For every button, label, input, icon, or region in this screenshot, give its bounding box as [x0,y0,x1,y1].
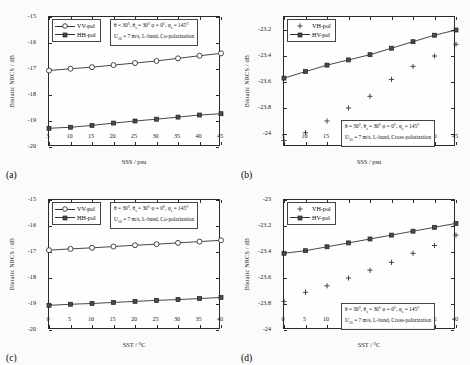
annotation-line-1: θ = 30°, θs = 30° φ = 0°, φs = 145° [345,123,431,134]
series-hv-pol [282,221,458,255]
data-point [304,249,308,253]
data-point [367,268,372,273]
data-point [347,58,351,62]
y-axis-label: Bistatic NRCS / dB [8,16,20,146]
x-tick-label: 45 [217,132,223,139]
data-point [133,119,137,123]
data-point [282,76,286,80]
data-point [90,245,95,250]
data-point [453,42,458,47]
legend-label: HH-pol [77,214,96,223]
series-vv-pol [47,51,224,73]
data-point [155,298,159,302]
legend-label: HV-pol [312,214,330,223]
data-point [389,260,394,265]
x-tick-mark [221,200,222,203]
data-point [69,125,73,129]
y-tick-label: -18 [0,90,36,97]
data-point [197,239,202,244]
data-point [324,283,329,288]
y-tick-label: -24 [231,325,271,332]
x-axis-label: SST / °C [48,341,220,348]
parameter-annotation: θ = 30°, θs = 30° φ = 0°, φs = 145°U10 =… [110,202,198,229]
parameter-annotation: θ = 30°, θs = 30° φ = 0°, φs = 145°U10 =… [110,19,198,46]
data-point [176,298,180,302]
x-tick-label: 5 [68,315,71,322]
data-point [411,40,415,44]
annotation-line-2: U10 = 7 m/s, L-band, Co-polarization [114,33,194,44]
annotation-line-2: U10 = 7 m/s, L-band, Co-polarization [114,216,194,227]
data-point [47,303,51,307]
x-tick-label: 15 [88,132,94,139]
y-tick-label: -23.2 [231,221,271,228]
series-vv-pol [47,238,224,253]
x-axis-label: SSS / psu [48,158,220,165]
legend-item: VV-pol [55,22,96,31]
y-tick-mark [49,147,52,148]
data-point [155,117,159,121]
x-tick-label: 25 [131,132,137,139]
annotation-line-1: θ = 30°, θs = 30° φ = 0°, φs = 145° [345,306,431,317]
data-point [410,64,415,69]
data-point [304,70,308,74]
chart-panel-a: Bistatic NRCS / dB-15-16-17-18-19-205101… [0,0,235,182]
y-tick-label: -15 [0,12,36,19]
data-point [411,229,415,233]
y-tick-label: -23.4 [231,247,271,254]
data-point [389,77,394,82]
x-tick-label: 5 [46,132,49,139]
data-point [303,290,308,295]
y-axis-label: Bistatic NRCS / dB [243,199,255,329]
y-tick-label: -23.8 [231,103,271,110]
data-point [198,113,202,117]
data-point [346,105,351,110]
data-point [176,115,180,119]
legend-label: VH-pol [312,22,331,31]
data-point [112,300,116,304]
x-tick-mark [221,325,222,328]
y-tick-label: -23 [231,195,271,202]
data-point [47,68,52,73]
legend-marker-circle-icon [55,22,75,30]
legend-marker-plus-icon [290,22,310,30]
panel-tag-a: (a) [6,170,17,180]
x-tick-label: 30 [174,315,180,322]
x-tick-label: 10 [66,132,72,139]
y-tick-label: -18 [0,273,36,280]
data-point [368,53,372,57]
chart-panel-b: Bistatic NRCS / dB-23.2-23.4-23.6-23.8-2… [235,0,470,182]
data-point [90,301,94,305]
data-point [346,275,351,280]
data-point [133,299,137,303]
figure-canvas: Bistatic NRCS / dB-15-16-17-18-19-205101… [0,0,470,365]
data-point [90,65,95,70]
data-point [47,248,52,253]
x-tick-label: 40 [217,315,223,322]
x-tick-label: 35 [195,315,201,322]
y-tick-label: -20 [0,142,36,149]
x-tick-label: 45 [452,132,458,139]
data-point [219,112,223,116]
data-point [111,244,116,249]
x-tick-label: 0 [46,315,49,322]
x-tick-label: 5 [303,315,306,322]
legend-item: HV-pol [290,31,331,40]
legend-label: VH-pol [312,205,331,214]
x-tick-mark [221,17,222,20]
data-point [176,240,181,245]
series-hh-pol [47,112,223,131]
data-point [282,251,286,255]
panel-tag-b: (b) [241,170,252,180]
panel-tag-c: (c) [6,353,17,363]
x-tick-label: 30 [152,132,158,139]
y-tick-mark [284,330,287,331]
series-hh-pol [47,296,223,308]
x-tick-label: 10 [323,315,329,322]
x-tick-label: 20 [131,315,137,322]
data-point [367,94,372,99]
parameter-annotation: θ = 30°, θs = 30° φ = 0°, φs = 145°U10 =… [341,120,435,147]
legend-item: HV-pol [290,214,331,223]
y-tick-mark [216,147,219,148]
legend-label: HH-pol [77,31,96,40]
x-tick-label: 0 [281,315,284,322]
